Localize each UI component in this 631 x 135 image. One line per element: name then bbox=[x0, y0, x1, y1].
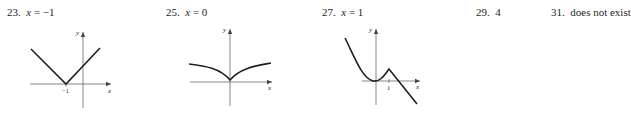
graph-25: y x bbox=[189, 26, 272, 106]
y-axis-label: y bbox=[368, 26, 373, 34]
tick-label: −1 bbox=[62, 87, 69, 94]
x-axis-label: x bbox=[415, 83, 420, 91]
x-axis-label: x bbox=[267, 84, 272, 92]
graph-curve bbox=[31, 48, 100, 84]
y-axis-label: y bbox=[222, 26, 227, 34]
y-axis-label: y bbox=[75, 29, 80, 37]
x-axis-label: x bbox=[107, 87, 112, 95]
graph-curve bbox=[345, 38, 417, 104]
graph-27: y x 1 bbox=[345, 26, 420, 105]
tick-label: 1 bbox=[387, 84, 390, 91]
graph-23: y x −1 bbox=[30, 29, 112, 108]
